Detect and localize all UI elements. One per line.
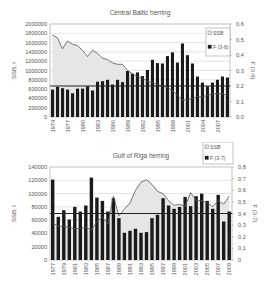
x-tick-label: 1995 <box>155 120 161 132</box>
y-tick-label: 20000 <box>31 244 47 250</box>
x-tick-label: 1980 <box>80 120 86 132</box>
data-bar <box>56 87 59 117</box>
data-bar <box>101 201 104 260</box>
x-tick-label: 1981 <box>72 263 78 275</box>
y2-tick-label: 0,4 <box>236 52 244 58</box>
data-bar <box>123 233 126 260</box>
x-tick-label: 2001 <box>182 263 188 275</box>
data-bar <box>112 198 115 260</box>
data-bar <box>145 232 148 260</box>
data-bar <box>116 80 119 117</box>
y-tick-label: 100000 <box>28 191 47 197</box>
x-tick-label: 1995 <box>149 263 155 275</box>
x-tick-label: 1983 <box>83 263 89 275</box>
y2-tick-label: 0,0 <box>236 114 244 120</box>
y2-tick-label: 0,1 <box>236 99 244 105</box>
data-bar <box>117 218 120 260</box>
data-bar <box>228 212 231 261</box>
x-tick-label: 1989 <box>116 263 122 275</box>
y2-tick-label: 0,1 <box>238 245 246 251</box>
data-bar <box>79 212 82 261</box>
data-bar <box>81 89 84 117</box>
legend-label: SSB <box>213 30 224 36</box>
data-bar <box>126 71 129 117</box>
data-bar <box>171 52 174 117</box>
y2-tick-label: 0,6 <box>236 21 244 27</box>
data-bar <box>181 44 184 118</box>
y2-axis-label: F (3-7) <box>252 205 258 223</box>
data-bar <box>66 90 69 117</box>
chart-title: Central Baltic herring <box>110 9 171 17</box>
y2-tick-label: 0,4 <box>238 211 246 217</box>
x-tick-label: 2001 <box>185 120 191 132</box>
data-bar <box>221 77 224 118</box>
y2-tick-label: 0,2 <box>238 234 246 240</box>
x-tick-label: 1979 <box>61 263 67 275</box>
data-bar <box>68 220 71 261</box>
y2-tick-label: 0 <box>238 257 241 263</box>
y-tick-label: 80000 <box>31 204 47 210</box>
x-tick-label: 1986 <box>110 120 116 132</box>
data-bar <box>176 63 179 117</box>
y-tick-label: 200000 <box>28 105 47 111</box>
data-bar <box>73 207 76 260</box>
data-bar <box>96 82 99 117</box>
y-tick-label: 0 <box>44 257 47 263</box>
data-bar <box>150 218 153 260</box>
y-tick-label: 1000000 <box>25 68 47 74</box>
y-tick-label: 1400000 <box>25 49 47 55</box>
x-tick-label: 1983 <box>95 120 101 132</box>
data-bar <box>86 86 89 117</box>
data-bar <box>211 209 214 260</box>
x-tick-label: 1998 <box>170 120 176 132</box>
data-bar <box>136 72 139 117</box>
data-bar <box>134 229 137 260</box>
data-bar <box>191 64 194 118</box>
legend-swatch-f <box>205 156 209 160</box>
data-bar <box>71 93 74 117</box>
y2-tick-label: 0,6 <box>238 187 246 193</box>
x-tick-label: 1999 <box>171 263 177 275</box>
x-tick-label: 1989 <box>125 120 131 132</box>
y2-tick-label: 0,5 <box>238 199 246 205</box>
data-bar <box>146 70 149 117</box>
data-bar <box>51 180 54 260</box>
x-tick-label: 1985 <box>94 263 100 275</box>
data-bar <box>90 178 93 260</box>
data-bar <box>206 201 209 260</box>
y2-tick-label: 0,3 <box>236 68 244 74</box>
legend-label: F (3-7) <box>210 155 226 161</box>
y-tick-label: 600000 <box>28 86 47 92</box>
data-bar <box>211 83 214 117</box>
data-bar <box>178 207 181 260</box>
y2-axis-label: F (3-6) <box>250 62 256 80</box>
data-bar <box>62 210 65 260</box>
x-tick-label: 1977 <box>65 120 71 132</box>
y-tick-label: 40000 <box>31 230 47 236</box>
legend-label: SSB <box>210 144 221 150</box>
data-bar <box>201 83 204 117</box>
data-bar <box>217 195 220 260</box>
x-tick-label: 1991 <box>127 263 133 275</box>
x-tick-label: 2004 <box>200 120 206 132</box>
y-tick-label: 1200000 <box>25 58 47 64</box>
chart-svg: Central Baltic herring020000040000060000… <box>0 0 269 142</box>
y-tick-label: 400000 <box>28 95 47 101</box>
x-tick-label: 2009 <box>226 263 232 275</box>
x-tick-label: 1974 <box>50 120 56 132</box>
data-bar <box>128 231 131 260</box>
y-tick-label: 800000 <box>28 77 47 83</box>
data-bar <box>194 196 197 260</box>
data-bar <box>161 198 164 260</box>
data-bar <box>106 80 109 117</box>
x-tick-label: 2007 <box>215 263 221 275</box>
chart-svg: Gulf of Riga herring02000040000600008000… <box>0 142 269 284</box>
data-bar <box>156 63 159 117</box>
y2-tick-label: 0,7 <box>238 176 246 182</box>
data-bar <box>76 89 79 117</box>
data-bar <box>57 217 60 260</box>
legend-swatch-ssb <box>208 31 212 35</box>
data-bar <box>151 60 154 117</box>
y2-tick-label: 0,2 <box>236 83 244 89</box>
x-tick-label: 1993 <box>138 263 144 275</box>
